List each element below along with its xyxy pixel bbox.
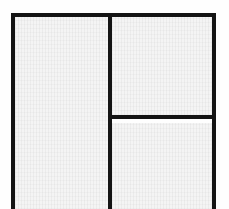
left-panel [15,17,108,209]
image-canvas [0,0,229,209]
frame-right-border [212,13,216,209]
right-lower-panel [112,123,212,209]
right-upper-panel [112,17,212,119]
outer-frame [11,13,216,209]
vertical-divider [108,13,112,209]
frame-top-border [11,13,216,17]
frame-left-border [11,13,15,209]
horizontal-divider [108,115,216,119]
